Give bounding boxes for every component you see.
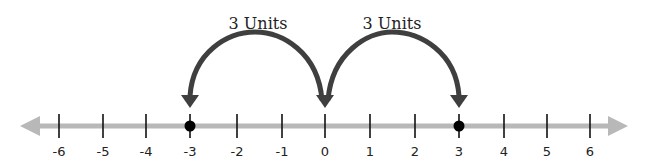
tick-label: 5 xyxy=(543,144,551,159)
tick-label: 4 xyxy=(500,144,508,159)
jump-label-left: 3 Units xyxy=(229,14,288,33)
tick-label: 1 xyxy=(366,144,374,159)
tick-label: -1 xyxy=(276,144,289,159)
right-arrowhead-icon xyxy=(608,116,628,136)
arrow-down-icon-right xyxy=(450,95,468,108)
arrow-down-icon-center xyxy=(316,95,334,108)
tick-label: 6 xyxy=(586,144,594,159)
jump-arc-left xyxy=(190,32,322,100)
left-arrowhead-icon xyxy=(20,116,40,136)
tick-label: -6 xyxy=(53,144,66,159)
tick-label: -5 xyxy=(97,144,110,159)
tick-label: -2 xyxy=(231,144,244,159)
point-marker xyxy=(454,121,465,132)
tick-label: 0 xyxy=(321,144,329,159)
arrow-down-icon-left xyxy=(181,95,199,108)
jump-label-right: 3 Units xyxy=(363,14,422,33)
tick-labels: -6-5-4-3-2-10123456 xyxy=(53,144,595,159)
number-line-diagram: -6-5-4-3-2-10123456 3 Units 3 Units xyxy=(0,0,659,167)
tick-label: 2 xyxy=(411,144,419,159)
jump-arc-right xyxy=(328,32,459,100)
tick-label: -3 xyxy=(184,144,197,159)
point-marker xyxy=(185,121,196,132)
tick-label: -4 xyxy=(140,144,153,159)
tick-label: 3 xyxy=(455,144,463,159)
